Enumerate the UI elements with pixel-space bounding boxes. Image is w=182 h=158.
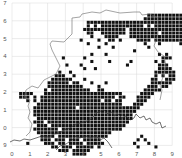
- tetrad-cell: [115, 110, 118, 113]
- tetrad-cell: [40, 110, 43, 113]
- tetrad-cell: [76, 85, 79, 88]
- tetrad-cell: [176, 28, 179, 31]
- tetrad-cell: [179, 21, 182, 24]
- tetrad-cell: [58, 149, 61, 152]
- tetrad-cell: [80, 39, 83, 42]
- tetrad-cell: [65, 145, 68, 148]
- y-axis-label: 7: [3, 0, 7, 6]
- grid-lines: [12, 3, 172, 145]
- tetrad-cell: [105, 120, 108, 123]
- tetrad-cell: [165, 56, 168, 59]
- tetrad-cell: [147, 17, 150, 20]
- tetrad-cell: [58, 99, 61, 102]
- tetrad-cell: [62, 85, 65, 88]
- tetrad-cell: [154, 21, 157, 24]
- tetrad-cell: [129, 106, 132, 109]
- tetrad-cell: [108, 124, 111, 127]
- tetrad-cell: [126, 64, 129, 67]
- tetrad-cell: [51, 142, 54, 145]
- tetrad-cell: [58, 135, 61, 138]
- tetrad-cell: [154, 85, 157, 88]
- tetrad-cell: [122, 28, 125, 31]
- tetrad-cell: [115, 106, 118, 109]
- tetrad-cell: [140, 135, 143, 138]
- tetrad-cell: [51, 128, 54, 131]
- tetrad-cell: [69, 99, 72, 102]
- tetrad-cell: [108, 31, 111, 34]
- tetrad-cell: [112, 35, 115, 38]
- tetrad-cell: [48, 96, 51, 99]
- tetrad-cell: [51, 81, 54, 84]
- tetrad-cell: [94, 128, 97, 131]
- y-axis-label: 9: [3, 142, 7, 148]
- tetrad-cell: [97, 85, 100, 88]
- tetrad-cell: [137, 99, 140, 102]
- tetrad-cell: [105, 103, 108, 106]
- tetrad-cell: [119, 24, 122, 27]
- tetrad-cell: [90, 145, 93, 148]
- tetrad-cell: [140, 96, 143, 99]
- tetrad-cell: [151, 92, 154, 95]
- tetrad-cell: [137, 96, 140, 99]
- tetrad-cell: [129, 28, 132, 31]
- tetrad-cell: [48, 99, 51, 102]
- tetrad-cell: [55, 138, 58, 141]
- tetrad-cell: [151, 85, 154, 88]
- tetrad-cell: [154, 81, 157, 84]
- tetrad-cell: [169, 39, 172, 42]
- tetrad-cell: [158, 17, 161, 20]
- tetrad-cell: [76, 145, 79, 148]
- tetrad-cell: [62, 88, 65, 91]
- tetrad-cell: [165, 85, 168, 88]
- tetrad-cell: [58, 117, 61, 120]
- tetrad-cell: [126, 24, 129, 27]
- tetrad-cell: [94, 99, 97, 102]
- tetrad-cell: [97, 39, 100, 42]
- tetrad-cell: [147, 39, 150, 42]
- tetrad-cell: [165, 39, 168, 42]
- tetrad-cell: [105, 21, 108, 24]
- y-axis-label: 1: [3, 107, 7, 113]
- tetrad-cell: [62, 92, 65, 95]
- tetrad-cell: [51, 88, 54, 91]
- tetrad-cell: [97, 113, 100, 116]
- tetrad-cell: [101, 24, 104, 27]
- tetrad-cell: [69, 78, 72, 81]
- tetrad-cell: [76, 153, 79, 156]
- tetrad-cell: [58, 74, 61, 77]
- tetrad-cell: [137, 35, 140, 38]
- tetrad-cell: [58, 124, 61, 127]
- tetrad-cell: [69, 135, 72, 138]
- tetrad-cell: [62, 81, 65, 84]
- tetrad-cell: [44, 92, 47, 95]
- tetrad-cell: [119, 106, 122, 109]
- tetrad-cell: [73, 74, 76, 77]
- tetrad-cell: [80, 117, 83, 120]
- tetrad-cell: [112, 128, 115, 131]
- tetrad-cell: [179, 17, 182, 20]
- tetrad-cell: [108, 103, 111, 106]
- tetrad-cell: [44, 117, 47, 120]
- tetrad-cell: [87, 42, 90, 45]
- tetrad-cell: [105, 135, 108, 138]
- tetrad-cell: [83, 138, 86, 141]
- tetrad-cell: [69, 117, 72, 120]
- tetrad-cell: [55, 81, 58, 84]
- tetrad-cell: [115, 99, 118, 102]
- x-axis-labels: 0123456789: [10, 151, 174, 157]
- tetrad-cell: [58, 120, 61, 123]
- tetrad-cell: [62, 74, 65, 77]
- tetrad-cell: [97, 92, 100, 95]
- tetrad-cell: [58, 81, 61, 84]
- tetrad-cell: [87, 124, 90, 127]
- tetrad-cell: [115, 120, 118, 123]
- tetrad-cell: [73, 85, 76, 88]
- tetrad-cell: [140, 24, 143, 27]
- tetrad-cell: [126, 106, 129, 109]
- tetrad-cell: [65, 117, 68, 120]
- tetrad-cell: [179, 28, 182, 31]
- tetrad-cell: [51, 92, 54, 95]
- tetrad-cell: [94, 92, 97, 95]
- tetrad-cell: [62, 110, 65, 113]
- tetrad-cell: [83, 106, 86, 109]
